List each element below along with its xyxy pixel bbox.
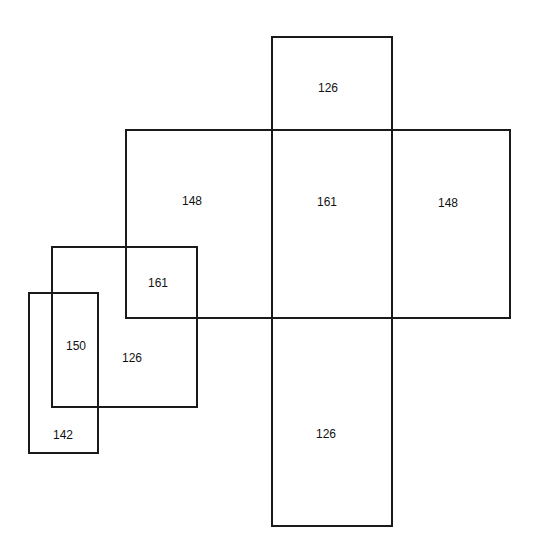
label-bottom-126: 126 xyxy=(316,427,336,441)
label-150: 150 xyxy=(66,339,86,353)
label-square-126: 126 xyxy=(122,351,142,365)
label-142: 142 xyxy=(53,428,73,442)
label-top: 126 xyxy=(318,81,338,95)
label-right-148: 148 xyxy=(438,196,458,210)
label-left-148: 148 xyxy=(182,194,202,208)
label-center-161: 161 xyxy=(317,195,337,209)
label-overlap-161: 161 xyxy=(148,276,168,290)
